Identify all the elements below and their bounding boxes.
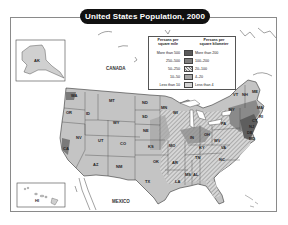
state-label-ca: CA (63, 147, 69, 151)
state-label-mn: MN (161, 106, 167, 110)
state-label-oh: OH (204, 133, 210, 137)
legend-row: 10–50 4–20 (149, 74, 235, 81)
legend-header-km: Persons per square kilometer (199, 39, 229, 47)
state-label-vt: VT (233, 93, 238, 97)
state-label-sd: SD (142, 115, 148, 119)
legend-mile-value: 50–250 (168, 67, 180, 71)
state-label-id: ID (86, 112, 90, 116)
state-label-ny: NY (229, 108, 235, 112)
mexico-coastlines (75, 178, 96, 210)
state-label-me: ME (252, 90, 258, 94)
state-label-ri: RI (259, 115, 263, 119)
state-label-tn: TN (195, 156, 200, 160)
state-label-wi: WI (173, 111, 178, 115)
state-label-tx: TX (145, 180, 150, 184)
label-mexico: MEXICO (112, 199, 130, 204)
state-label-hi: HI (35, 199, 39, 203)
legend-swatch (184, 58, 193, 64)
legend: Persons per square mile Persons per squa… (148, 36, 236, 90)
legend-km-value: 20–100 (195, 67, 207, 71)
state-label-md: MD (249, 137, 255, 141)
state-label-wv: WV (214, 139, 220, 143)
legend-mile-value: More than 500 (157, 51, 180, 55)
legend-km-value: 4–20 (195, 75, 203, 79)
state-label-ma: MA (257, 106, 263, 110)
label-canada: CANADA (106, 66, 126, 71)
legend-swatch (184, 74, 193, 80)
state-label-ks: KS (148, 145, 154, 149)
state-label-wy: WY (113, 121, 119, 125)
legend-swatch (184, 50, 193, 56)
state-label-ct: CT (252, 119, 257, 123)
state-label-ky: KY (199, 146, 205, 150)
state-label-de: DE (247, 131, 253, 135)
legend-mile-value: Less than 10 (159, 83, 180, 87)
state-label-va: VA (221, 146, 226, 150)
legend-row: 250–500 100–200 (149, 58, 235, 65)
state-label-ne: NE (143, 129, 149, 133)
legend-row: More than 500 More than 200 (149, 50, 235, 57)
state-label-ut: UT (98, 139, 103, 143)
state-label-nj: NJ (249, 125, 254, 129)
state-label-ak: AK (34, 59, 40, 63)
state-label-ar: AR (172, 161, 178, 165)
state-label-az: AZ (93, 163, 98, 167)
legend-row: 50–250 20–100 (149, 66, 235, 73)
state-label-co: CO (120, 142, 126, 146)
state-label-ms: MS (185, 173, 191, 177)
state-label-in: IN (190, 136, 194, 140)
legend-mile-value: 10–50 (170, 75, 180, 79)
state-label-nv: NV (76, 136, 82, 140)
state-label-ok: OK (153, 160, 159, 164)
legend-swatch (184, 66, 193, 72)
state-label-al: AL (193, 173, 198, 177)
state-label-mt: MT (109, 99, 115, 103)
us-population-map (0, 0, 288, 225)
state-label-la: LA (175, 180, 180, 184)
state-label-wa: WA (71, 94, 77, 98)
legend-header-mile: Persons per square mile (153, 39, 183, 47)
state-label-mo: MO (169, 144, 175, 148)
legend-row: Less than 10 Less than 4 (149, 82, 235, 89)
legend-km-value: More than 200 (195, 51, 218, 55)
legend-km-value: 100–200 (195, 59, 209, 63)
state-label-nh: NH (242, 93, 248, 97)
hawaii-inset (17, 183, 65, 207)
state-label-pa: PA (221, 122, 226, 126)
state-label-nd: ND (142, 101, 148, 105)
state-label-nm: NM (116, 165, 122, 169)
state-label-or: OR (66, 111, 72, 115)
map-title: United States Population, 2000 (80, 9, 210, 24)
caribbean-islands (245, 195, 258, 207)
state-label-nc: NC (219, 158, 225, 162)
legend-swatch (184, 82, 193, 88)
legend-km-value: Less than 4 (195, 83, 214, 87)
legend-mile-value: 250–500 (166, 59, 180, 63)
